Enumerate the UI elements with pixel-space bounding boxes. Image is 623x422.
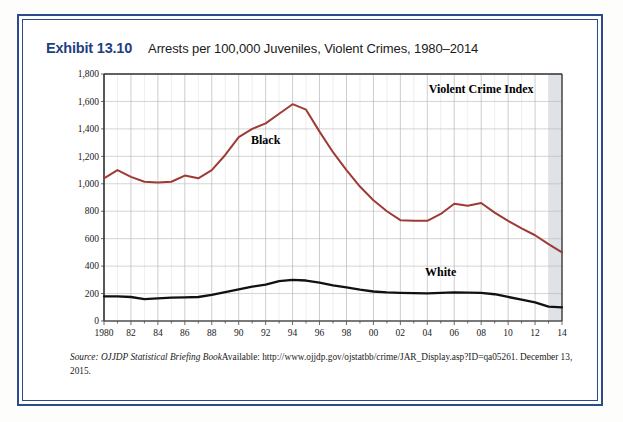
y-axis-label: 0 [94,316,99,326]
source-url: http://www.ojjdp.gov/ojstatbb/crime/JAR_… [262,352,518,362]
exhibit-number: Exhibit 13.10 [46,40,132,56]
exhibit-title: Arrests per 100,000 Juveniles, Violent C… [148,41,478,56]
chart-plot-area: 02004006008001,0001,2001,4001,6001,80019… [78,69,568,351]
y-axis-label: 1,400 [78,124,99,134]
x-axis-label: 02 [396,328,406,338]
x-axis-label: 04 [423,328,433,338]
y-axis-label: 800 [85,206,100,216]
violent-crime-index-annotation: Violent Crime Index [429,82,534,96]
x-axis-label: 06 [449,328,459,338]
source-prefix: Source: [70,352,99,362]
source-note: Source: OJJDP Statistical Briefing BookA… [70,351,590,378]
shaded-band [549,74,562,321]
series-label-white: White [425,265,457,279]
x-axis-label: 12 [530,328,540,338]
x-axis-label: 14 [557,328,567,338]
x-axis-label: 84 [153,328,163,338]
y-axis-label: 1,800 [78,69,99,79]
source-publication: OJJDP Statistical Briefing Book [101,352,222,362]
x-axis-label: 08 [476,328,486,338]
y-axis-label: 600 [85,234,100,244]
y-axis-label: 400 [85,261,100,271]
x-axis-label: 96 [315,328,325,338]
exhibit-header: Exhibit 13.10 Arrests per 100,000 Juveni… [46,39,478,57]
x-axis-label: 82 [126,328,136,338]
y-axis-label: 200 [85,289,100,299]
x-axis-label: 92 [261,328,271,338]
source-available-label: Available: [222,352,260,362]
series-label-black: Black [251,133,281,147]
x-axis-label: 90 [234,328,244,338]
x-axis-label: 98 [342,328,352,338]
x-axis-label: 86 [180,328,190,338]
line-chart: 02004006008001,0001,2001,4001,6001,80019… [78,69,568,351]
x-axis-label: 94 [288,328,298,338]
y-axis-label: 1,200 [78,152,99,162]
y-axis-label: 1,600 [78,97,99,107]
exhibit-page: Exhibit 13.10 Arrests per 100,000 Juveni… [0,0,623,422]
x-axis-label: 00 [369,328,379,338]
x-axis-label: 88 [207,328,217,338]
x-axis-label: 10 [503,328,513,338]
y-axis-label: 1,000 [78,179,99,189]
exhibit-panel: Exhibit 13.10 Arrests per 100,000 Juveni… [24,21,596,399]
x-axis-label: 1980 [95,328,114,338]
